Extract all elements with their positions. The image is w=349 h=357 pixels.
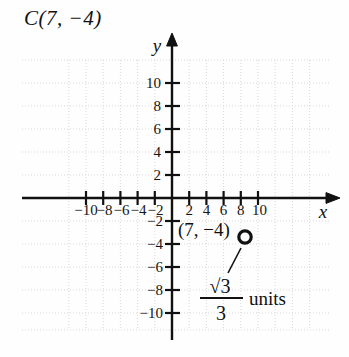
x-tick-label: −6 bbox=[114, 202, 130, 218]
x-tick-label: 6 bbox=[220, 202, 228, 218]
x-tick-label: 8 bbox=[237, 202, 245, 218]
y-tick-label: 8 bbox=[154, 98, 162, 114]
y-tick-label: −2 bbox=[147, 213, 163, 229]
y-tick-label: 4 bbox=[154, 144, 162, 160]
leader-line bbox=[228, 248, 241, 273]
y-tick-label: −10 bbox=[140, 305, 163, 321]
x-tick-label: 2 bbox=[185, 202, 193, 218]
point-label-c: (7, −4) bbox=[178, 219, 230, 241]
x-tick-label: −4 bbox=[131, 202, 147, 218]
annotation-numerator: √3 bbox=[210, 275, 231, 297]
annotation-denominator: 3 bbox=[216, 302, 226, 324]
y-axis-arrow bbox=[167, 33, 178, 46]
y-axis-label: y bbox=[151, 35, 162, 56]
x-axis-arrow bbox=[326, 193, 340, 204]
x-tick-label: −10 bbox=[74, 202, 97, 218]
coordinate-plane-plot: −10 −8 −6 −4 −2 2 4 6 8 10 10 8 6 4 2 −2… bbox=[0, 0, 349, 357]
y-tick-label: −6 bbox=[147, 259, 163, 275]
y-tick-label: 6 bbox=[154, 121, 162, 137]
coordinate-plane-figure: C(7, −4) bbox=[0, 0, 349, 357]
distance-annotation: √3 3 units bbox=[200, 275, 286, 324]
annotation-units: units bbox=[249, 288, 286, 309]
y-tick-label: −4 bbox=[147, 236, 163, 252]
x-axis-label: x bbox=[318, 201, 328, 222]
x-tick-labels: −10 −8 −6 −4 −2 2 4 6 8 10 bbox=[74, 202, 267, 218]
y-tick-label: 2 bbox=[154, 167, 162, 183]
x-tick-label: −8 bbox=[97, 202, 113, 218]
x-tick-label: 10 bbox=[252, 202, 267, 218]
x-tick-label: 4 bbox=[203, 202, 211, 218]
y-tick-label: 10 bbox=[146, 75, 161, 91]
y-tick-label: −8 bbox=[147, 282, 163, 298]
